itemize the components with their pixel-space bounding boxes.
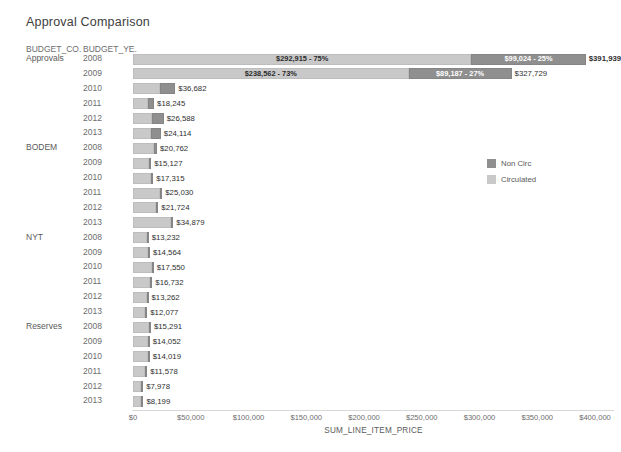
bar-segment-non-circ[interactable] xyxy=(150,277,152,288)
bar-segment-non-circ[interactable] xyxy=(149,322,151,333)
legend-item[interactable]: Non Circ xyxy=(487,157,577,170)
bar-segment-circulated[interactable]: $292,915 - 75% xyxy=(133,54,471,65)
stacked-bar[interactable] xyxy=(133,98,154,109)
chart-row: 2010$17,550 xyxy=(26,260,602,275)
stacked-bar[interactable] xyxy=(133,128,161,139)
stacked-bar[interactable] xyxy=(133,307,147,318)
row-group-label: Approvals xyxy=(26,53,80,63)
bar-segment-circulated[interactable] xyxy=(133,277,150,288)
bar-total-label: $36,682 xyxy=(178,85,206,93)
bar-area: $36,682 xyxy=(133,82,602,97)
bar-total-label: $12,077 xyxy=(150,309,178,317)
bar-segment-non-circ[interactable] xyxy=(141,381,143,392)
bar-segment-circulated[interactable] xyxy=(133,113,152,124)
bar-segment-non-circ[interactable] xyxy=(160,83,175,94)
bar-segment-non-circ[interactable] xyxy=(148,98,154,109)
stacked-bar[interactable] xyxy=(133,396,143,407)
stacked-bar[interactable] xyxy=(133,83,175,94)
stacked-bar[interactable] xyxy=(133,366,147,377)
x-axis-tick: $300,000 xyxy=(464,413,496,422)
stacked-bar[interactable] xyxy=(133,232,149,243)
stacked-bar[interactable] xyxy=(133,262,154,273)
bar-segment-circulated[interactable] xyxy=(133,292,147,303)
stacked-bar[interactable]: $292,915 - 75%$99,024 - 25% xyxy=(133,54,586,65)
bar-segment-non-circ[interactable] xyxy=(141,396,143,407)
stacked-bar[interactable] xyxy=(133,173,153,184)
bar-segment-non-circ[interactable] xyxy=(171,217,173,228)
bar-segment-circulated[interactable] xyxy=(133,262,152,273)
bar-segment-circulated[interactable] xyxy=(133,217,171,228)
stacked-bar[interactable] xyxy=(133,277,152,288)
stacked-bar[interactable] xyxy=(133,188,162,199)
bar-segment-circulated[interactable] xyxy=(133,128,151,139)
stacked-bar[interactable] xyxy=(133,381,143,392)
row-year-label: 2013 xyxy=(83,395,102,405)
stacked-bar[interactable] xyxy=(133,322,151,333)
bar-segment-label-non-circ: $99,024 - 25% xyxy=(504,55,552,62)
bar-segment-circulated[interactable] xyxy=(133,173,151,184)
bar-segment-non-circ[interactable] xyxy=(147,292,149,303)
bar-total-label: $13,262 xyxy=(152,294,180,302)
stacked-bar[interactable] xyxy=(133,247,150,258)
page-title: Approval Comparison xyxy=(26,15,150,29)
bar-area: $292,915 - 75%$99,024 - 25%$391,939 xyxy=(133,52,602,67)
stacked-bar[interactable] xyxy=(133,336,150,347)
bar-segment-label-non-circ: $89,187 - 27% xyxy=(436,70,484,77)
bar-total-label: $14,019 xyxy=(153,353,181,361)
bar-segment-non-circ[interactable] xyxy=(148,247,150,258)
bar-segment-circulated[interactable] xyxy=(133,98,148,109)
bar-segment-circulated[interactable] xyxy=(133,83,160,94)
bar-area: $238,562 - 73%$89,187 - 27%$327,729 xyxy=(133,67,602,82)
chart-row: 2013$24,114 xyxy=(26,126,602,141)
bar-segment-circulated[interactable] xyxy=(133,322,149,333)
stacked-bar[interactable] xyxy=(133,351,150,362)
bar-segment-non-circ[interactable] xyxy=(149,158,151,169)
bar-segment-circulated[interactable] xyxy=(133,396,141,407)
legend: Non CircCirculated xyxy=(487,157,577,189)
row-group-label: BODEM xyxy=(26,142,80,152)
bar-segment-non-circ[interactable] xyxy=(151,128,161,139)
bar-segment-non-circ[interactable]: $99,024 - 25% xyxy=(471,54,585,65)
bar-segment-circulated[interactable]: $238,562 - 73% xyxy=(133,68,409,79)
chart-row: 2012$21,724 xyxy=(26,201,602,216)
bar-segment-circulated[interactable] xyxy=(133,351,148,362)
stacked-bar[interactable]: $238,562 - 73%$89,187 - 27% xyxy=(133,68,512,79)
bar-segment-non-circ[interactable]: $89,187 - 27% xyxy=(409,68,512,79)
bar-segment-non-circ[interactable] xyxy=(154,143,157,154)
row-group-label: Reserves xyxy=(26,321,80,331)
bar-segment-circulated[interactable] xyxy=(133,232,147,243)
stacked-bar[interactable] xyxy=(133,217,173,228)
legend-item[interactable]: Circulated xyxy=(487,173,577,186)
stacked-bar[interactable] xyxy=(133,113,164,124)
bar-segment-non-circ[interactable] xyxy=(152,262,154,273)
stacked-bar[interactable] xyxy=(133,158,151,169)
legend-swatch-icon xyxy=(487,159,496,168)
bar-segment-circulated[interactable] xyxy=(133,336,148,347)
stacked-bar[interactable] xyxy=(133,292,149,303)
bar-area: $21,724 xyxy=(133,201,602,216)
bar-segment-non-circ[interactable] xyxy=(147,232,149,243)
bar-segment-circulated[interactable] xyxy=(133,202,156,213)
bar-total-label: $26,588 xyxy=(167,115,195,123)
bar-segment-circulated[interactable] xyxy=(133,158,149,169)
x-axis-tick: $100,000 xyxy=(233,413,265,422)
bar-segment-non-circ[interactable] xyxy=(152,113,164,124)
stacked-bar[interactable] xyxy=(133,202,158,213)
bar-segment-non-circ[interactable] xyxy=(145,307,147,318)
row-year-label: 2008 xyxy=(83,53,102,63)
bar-segment-non-circ[interactable] xyxy=(160,188,162,199)
row-year-label: 2009 xyxy=(83,157,102,167)
bar-segment-non-circ[interactable] xyxy=(148,336,150,347)
bar-segment-circulated[interactable] xyxy=(133,188,160,199)
bar-segment-non-circ[interactable] xyxy=(156,202,158,213)
bar-segment-circulated[interactable] xyxy=(133,247,148,258)
bar-segment-non-circ[interactable] xyxy=(148,351,150,362)
bar-segment-circulated[interactable] xyxy=(133,381,141,392)
bar-segment-non-circ[interactable] xyxy=(145,366,147,377)
stacked-bar[interactable] xyxy=(133,143,157,154)
bar-segment-circulated[interactable] xyxy=(133,143,154,154)
bar-area: $24,114 xyxy=(133,126,602,141)
bar-segment-circulated[interactable] xyxy=(133,366,145,377)
bar-segment-circulated[interactable] xyxy=(133,307,145,318)
bar-segment-non-circ[interactable] xyxy=(151,173,153,184)
